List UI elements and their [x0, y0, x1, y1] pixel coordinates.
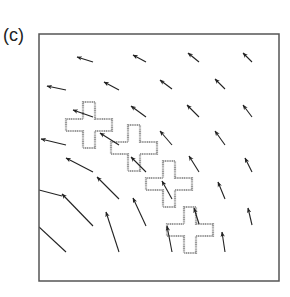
- vector-field-figure: [0, 0, 290, 297]
- vector-arrow: [160, 131, 172, 145]
- vector-arrow: [100, 133, 119, 145]
- plot-frame: [39, 34, 279, 281]
- vector-arrow: [131, 106, 146, 117]
- crosses-layer: [66, 102, 213, 253]
- vector-arrow: [77, 57, 93, 62]
- vector-arrow: [133, 198, 146, 226]
- clipped-vector-line: [39, 190, 62, 196]
- vector-arrow: [215, 131, 225, 145]
- vector-arrow: [222, 232, 225, 252]
- vector-arrow: [215, 79, 225, 89]
- vector-arrow: [66, 158, 93, 172]
- vector-arrow: [189, 156, 199, 172]
- cross-marker: [146, 161, 192, 207]
- vector-arrow: [243, 53, 252, 62]
- vector-arrow: [106, 212, 119, 252]
- vector-arrow: [218, 182, 225, 199]
- vector-arrow: [41, 139, 66, 145]
- cross-marker: [111, 125, 157, 171]
- vector-arrow: [188, 53, 199, 62]
- cross-marker: [66, 102, 112, 148]
- vector-arrow: [47, 86, 66, 90]
- vector-arrow: [97, 177, 119, 199]
- vector-arrow: [160, 80, 172, 89]
- vector-arrow: [104, 82, 119, 90]
- cross-marker: [167, 207, 213, 253]
- vector-arrow: [187, 105, 199, 117]
- vector-arrow: [243, 105, 252, 117]
- vector-arrow: [248, 208, 252, 225]
- clipped-vector-line: [39, 227, 66, 252]
- vector-arrow: [133, 55, 146, 62]
- vector-arrow: [245, 158, 252, 172]
- vector-arrow: [62, 194, 93, 226]
